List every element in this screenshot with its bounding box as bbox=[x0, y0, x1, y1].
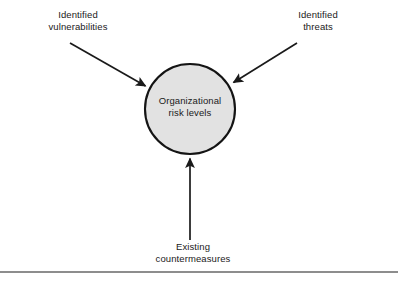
label-identified-vulnerabilities-line2: vulnerabilities bbox=[18, 21, 138, 33]
diagram-canvas bbox=[0, 0, 398, 282]
label-organizational-risk-levels-line2: risk levels bbox=[140, 107, 240, 119]
label-existing-countermeasures: Existing countermeasures bbox=[133, 241, 253, 265]
footer-divider bbox=[0, 271, 398, 273]
label-existing-countermeasures-line2: countermeasures bbox=[133, 253, 253, 265]
label-existing-countermeasures-line1: Existing bbox=[133, 241, 253, 253]
label-identified-vulnerabilities: Identified vulnerabilities bbox=[18, 9, 138, 33]
arrow-vulnerabilities-to-risk bbox=[70, 43, 146, 86]
risk-diagram-figure: Identified vulnerabilities Identified th… bbox=[0, 0, 398, 282]
label-organizational-risk-levels: Organizational risk levels bbox=[140, 95, 240, 119]
label-identified-threats-line2: threats bbox=[258, 21, 378, 33]
label-identified-threats-line1: Identified bbox=[258, 9, 378, 21]
arrow-threats-to-risk bbox=[234, 43, 298, 83]
label-organizational-risk-levels-line1: Organizational bbox=[140, 95, 240, 107]
label-identified-threats: Identified threats bbox=[258, 9, 378, 33]
label-identified-vulnerabilities-line1: Identified bbox=[18, 9, 138, 21]
